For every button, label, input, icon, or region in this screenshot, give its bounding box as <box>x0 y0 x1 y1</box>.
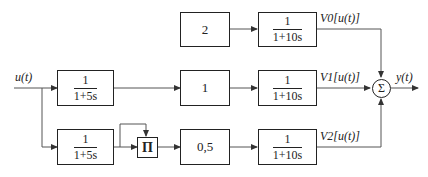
filter-block-branch1: 1 1+10s <box>258 70 317 106</box>
denominator: 1+5s <box>74 149 97 162</box>
prefilter-block-branch2: 1 1+5s <box>57 129 114 165</box>
gain-block-2: 2 <box>180 12 230 47</box>
transfer-function: 1 1+10s <box>273 133 302 162</box>
filter-block-branch0: 1 1+10s <box>258 12 317 47</box>
gain-block-1: 1 <box>180 70 230 106</box>
numerator: 1 <box>81 74 91 87</box>
transfer-function: 1 1+10s <box>273 74 302 103</box>
output-label-v2: V2[u(t)] <box>320 129 360 144</box>
input-label: u(t) <box>15 70 32 85</box>
sigma-icon: Σ <box>378 81 385 96</box>
transfer-function: 1 1+5s <box>74 74 97 103</box>
numerator: 1 <box>283 133 293 146</box>
transfer-function: 1 1+5s <box>74 133 97 162</box>
denominator: 1+10s <box>273 31 302 44</box>
prefilter-block-branch1: 1 1+5s <box>57 70 114 106</box>
denominator: 1+5s <box>74 90 97 103</box>
gain-value: 0,5 <box>197 139 213 155</box>
gain-value: 1 <box>202 80 209 96</box>
multiplier-block: Π <box>137 137 158 158</box>
gain-block-0.5: 0,5 <box>180 129 230 165</box>
output-label: y(t) <box>396 70 413 85</box>
product-icon: Π <box>142 140 153 156</box>
numerator: 1 <box>283 15 293 28</box>
filter-block-branch2: 1 1+10s <box>258 129 317 165</box>
numerator: 1 <box>81 133 91 146</box>
numerator: 1 <box>283 74 293 87</box>
output-label-v1: V1[u(t)] <box>320 70 360 85</box>
denominator: 1+10s <box>273 149 302 162</box>
summing-junction: Σ <box>372 79 391 98</box>
transfer-function: 1 1+10s <box>273 15 302 44</box>
gain-value: 2 <box>202 22 209 38</box>
output-label-v0: V0[u(t)] <box>320 11 360 26</box>
denominator: 1+10s <box>273 90 302 103</box>
